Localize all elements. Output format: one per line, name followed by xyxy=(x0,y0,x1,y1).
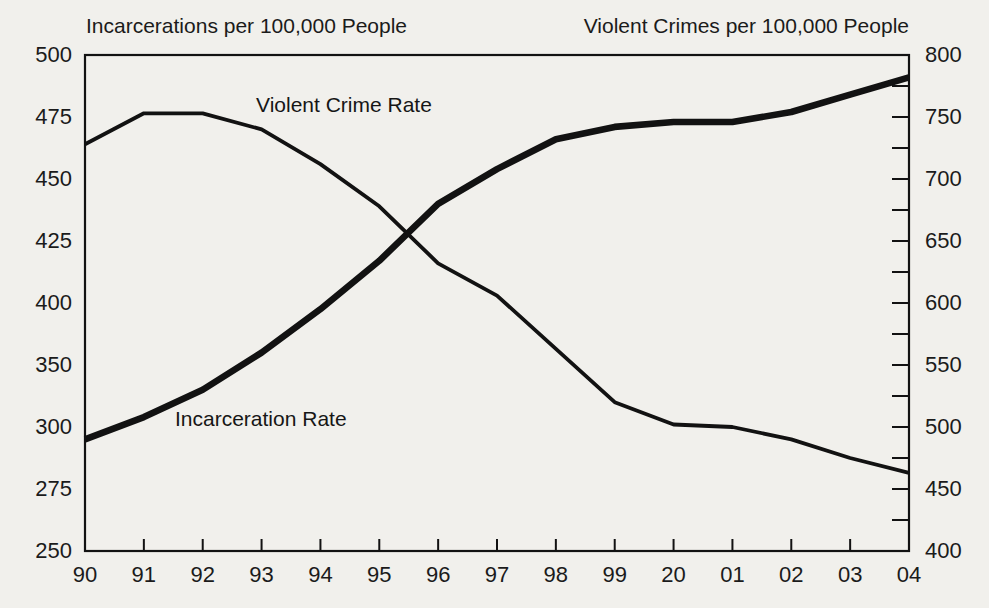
x-axis-tick-label: 94 xyxy=(290,562,350,588)
right-axis-tick-label: 600 xyxy=(925,290,985,316)
right-axis-tick-label: 500 xyxy=(925,414,985,440)
violent-crime-series-label: Violent Crime Rate xyxy=(256,92,432,117)
x-axis-tick-label: 20 xyxy=(644,562,704,588)
right-axis-tick-label: 700 xyxy=(925,166,985,192)
right-axis-tick-label: 450 xyxy=(925,476,985,502)
left-axis-tick-label: 475 xyxy=(12,104,72,130)
x-axis-tick-label: 03 xyxy=(820,562,880,588)
left-axis-tick-label: 500 xyxy=(12,42,72,68)
left-axis-tick-label: 250 xyxy=(12,538,72,564)
left-axis-tick-label: 300 xyxy=(12,414,72,440)
right-axis-tick-label: 750 xyxy=(925,104,985,130)
x-axis-tick-label: 95 xyxy=(349,562,409,588)
x-axis-tick-label: 92 xyxy=(173,562,233,588)
x-axis-tick-label: 91 xyxy=(114,562,174,588)
x-axis-tick-label: 98 xyxy=(526,562,586,588)
right-axis-tick-label: 650 xyxy=(925,228,985,254)
right-axis-tick-label: 400 xyxy=(925,538,985,564)
x-axis-tick-label: 01 xyxy=(702,562,762,588)
left-axis-tick-label: 275 xyxy=(12,476,72,502)
left-axis-tick-label: 350 xyxy=(12,352,72,378)
x-axis-tick-label: 97 xyxy=(467,562,527,588)
incarceration-rate-line xyxy=(85,77,909,439)
chart-page: Incarcerations per 100,000 People Violen… xyxy=(0,0,989,608)
x-axis-tick-label: 90 xyxy=(55,562,115,588)
right-axis-tick-label: 550 xyxy=(925,352,985,378)
left-axis-tick-label: 400 xyxy=(12,290,72,316)
x-axis-tick-label: 96 xyxy=(408,562,468,588)
x-axis-tick-label: 02 xyxy=(761,562,821,588)
plot-area xyxy=(0,0,989,608)
left-axis-tick-label: 450 xyxy=(12,166,72,192)
x-axis-tick-label: 99 xyxy=(585,562,645,588)
x-axis-tick-label: 04 xyxy=(879,562,939,588)
left-axis-tick-label: 425 xyxy=(12,228,72,254)
incarceration-series-label: Incarceration Rate xyxy=(175,406,347,431)
x-axis-tick-label: 93 xyxy=(232,562,292,588)
right-axis-tick-label: 800 xyxy=(925,42,985,68)
plot-border xyxy=(85,55,909,551)
